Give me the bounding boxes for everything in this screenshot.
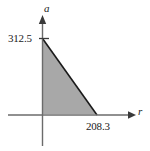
triangular-feasible-region-figure: a r 312.5 208.3 — [0, 0, 150, 151]
x-axis-label: r — [138, 106, 142, 117]
arrow-right-icon — [128, 111, 136, 119]
chart-canvas — [0, 0, 150, 151]
y-intercept-tick-label: 312.5 — [8, 33, 32, 44]
x-intercept-tick-label: 208.3 — [86, 121, 110, 132]
arrow-up-icon — [39, 15, 46, 24]
y-axis-label: a — [44, 3, 50, 14]
